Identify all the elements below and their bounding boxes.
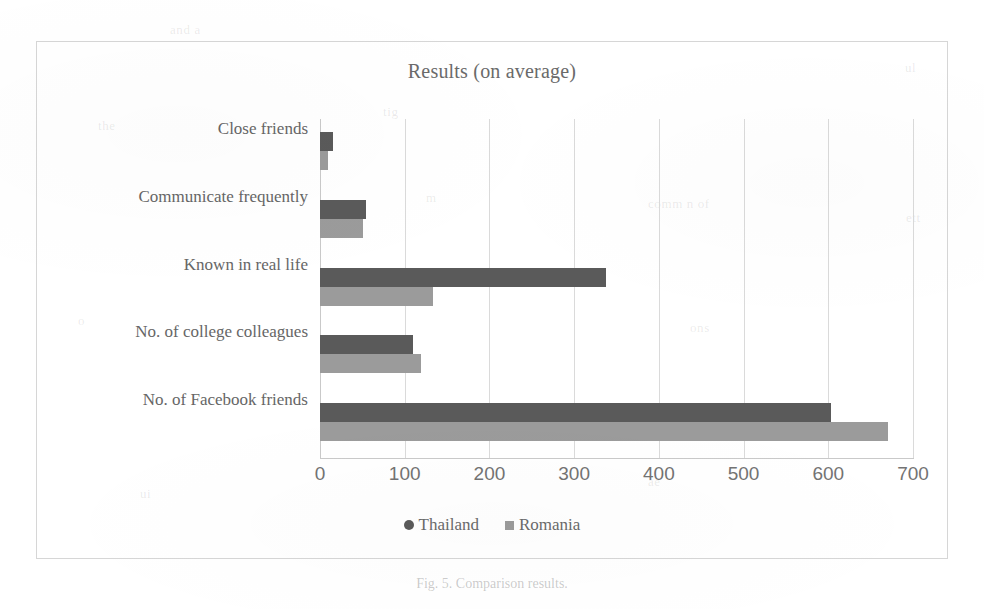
bar-group: Close friends	[320, 119, 913, 187]
figure-caption: Fig. 5. Comparison results.	[0, 576, 984, 596]
gridline-700	[913, 119, 914, 458]
legend-item-romania[interactable]: Romania	[505, 515, 580, 535]
bar-group: No. of Facebook friends	[320, 390, 913, 458]
bar-thailand	[320, 403, 831, 422]
x-tick-label-400: 400	[643, 463, 675, 485]
x-tick-label-500: 500	[728, 463, 760, 485]
bleed-through-mark: and a	[170, 22, 201, 38]
bar-thailand	[320, 132, 333, 151]
bar-thailand	[320, 335, 413, 354]
legend-label: Thailand	[419, 515, 479, 535]
bar-romania	[320, 287, 433, 306]
bar-romania	[320, 354, 421, 373]
legend-item-thailand[interactable]: Thailand	[404, 515, 479, 535]
plot-area: Close friendsCommunicate frequentlyKnown…	[320, 119, 913, 458]
chart-container: Results (on average) Close friendsCommun…	[36, 41, 948, 559]
category-label: Close friends	[8, 119, 320, 139]
category-label: No. of college colleagues	[8, 322, 320, 342]
x-tick-label-300: 300	[558, 463, 590, 485]
bar-group: Communicate frequently	[320, 187, 913, 255]
x-tick-label-700: 700	[897, 463, 929, 485]
x-tick-label-100: 100	[389, 463, 421, 485]
category-label: Known in real life	[8, 255, 320, 275]
category-label: Communicate frequently	[8, 187, 320, 207]
legend-label: Romania	[519, 515, 580, 535]
bar-group: No. of college colleagues	[320, 322, 913, 390]
x-tick-label-200: 200	[474, 463, 506, 485]
x-tick-label-0: 0	[315, 463, 326, 485]
bar-group: Known in real life	[320, 255, 913, 323]
bar-romania	[320, 219, 363, 238]
legend-square-icon	[505, 521, 514, 530]
legend-circle-icon	[404, 520, 414, 530]
bar-romania	[320, 151, 328, 170]
category-label: No. of Facebook friends	[8, 390, 320, 410]
bar-thailand	[320, 200, 366, 219]
bar-romania	[320, 422, 888, 441]
chart-title: Results (on average)	[37, 60, 947, 83]
x-tick-label-600: 600	[812, 463, 844, 485]
chart-legend: ThailandRomania	[37, 515, 947, 535]
bar-thailand	[320, 268, 606, 287]
x-axis-tick-labels: 0100200300400500600700	[320, 463, 913, 493]
x-axis-line	[320, 458, 914, 459]
